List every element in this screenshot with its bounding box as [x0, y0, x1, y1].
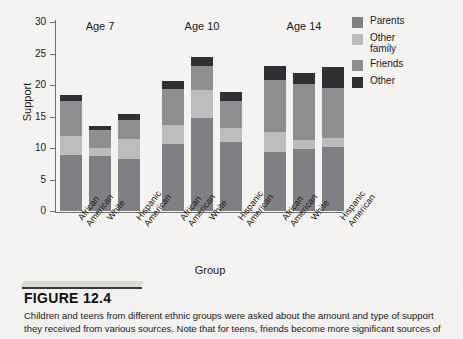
bar-segment-other-family	[220, 128, 242, 141]
figure-graphic: 051015202530 Support Group Age 7Age 10Ag…	[0, 0, 463, 283]
bar-segment-other-family	[60, 136, 82, 155]
legend-swatch	[352, 77, 363, 88]
legend-item: Other	[352, 76, 457, 88]
bar-segment-other-family	[89, 148, 111, 156]
figure-number: FIGURE 12.4	[24, 290, 111, 306]
bar-segment-parents	[60, 155, 82, 211]
y-tick-label: 30	[20, 17, 46, 27]
bar-segment-other-family	[118, 139, 140, 160]
y-tick-mark	[50, 211, 55, 212]
x-axis-title: Group	[150, 264, 270, 276]
chart-legend: ParentsOtherfamilyFriendsOther	[352, 16, 457, 93]
bar-segment-other	[220, 92, 242, 101]
bar-segment-other	[162, 81, 184, 89]
legend-label: Parents	[370, 16, 404, 27]
bar-segment-friends	[60, 101, 82, 136]
bar-segment-other-family	[293, 140, 315, 149]
bar-segment-other-family	[162, 125, 184, 143]
figure-caption-block: FIGURE 12.4 Children and teens from diff…	[0, 283, 463, 339]
bar-segment-other	[191, 57, 213, 66]
y-tick-mark	[50, 148, 55, 149]
y-axis-title: Support	[21, 47, 33, 157]
y-tick-label: 5	[20, 175, 46, 185]
bar-segment-other	[264, 66, 286, 80]
bar-segment-friends	[220, 101, 242, 128]
legend-item: Otherfamily	[352, 33, 457, 54]
legend-item: Friends	[352, 59, 457, 71]
legend-item: Parents	[352, 16, 457, 28]
y-tick-mark	[50, 180, 55, 181]
bar-segment-friends	[89, 130, 111, 148]
legend-label: Other	[370, 76, 395, 87]
bar-segment-friends	[322, 88, 344, 138]
legend-swatch	[352, 34, 363, 45]
y-tick-mark	[50, 85, 55, 86]
bar-segment-other-family	[191, 90, 213, 118]
bar-segment-other	[322, 67, 344, 87]
y-tick-mark	[50, 54, 55, 55]
legend-swatch	[352, 17, 363, 28]
y-tick-label: 0	[20, 206, 46, 216]
bar-segment-other	[293, 73, 315, 84]
bar-segment-friends	[264, 80, 286, 132]
y-tick-mark	[50, 22, 55, 23]
bar-segment-friends	[293, 84, 315, 140]
bar-segment-friends	[191, 66, 213, 90]
bar-segment-other-family	[264, 132, 286, 153]
y-tick-mark	[50, 117, 55, 118]
plot-area	[56, 22, 341, 211]
bar-segment-friends	[162, 89, 184, 126]
figure-caption-text: Children and teens from different ethnic…	[24, 310, 448, 335]
bar-segment-other-family	[322, 138, 344, 147]
bar-segment-friends	[118, 120, 140, 138]
legend-label: Otherfamily	[370, 33, 396, 54]
legend-label: Friends	[370, 59, 403, 70]
caption-rule	[22, 287, 142, 289]
legend-swatch	[352, 60, 363, 71]
bar-stack	[60, 95, 82, 211]
